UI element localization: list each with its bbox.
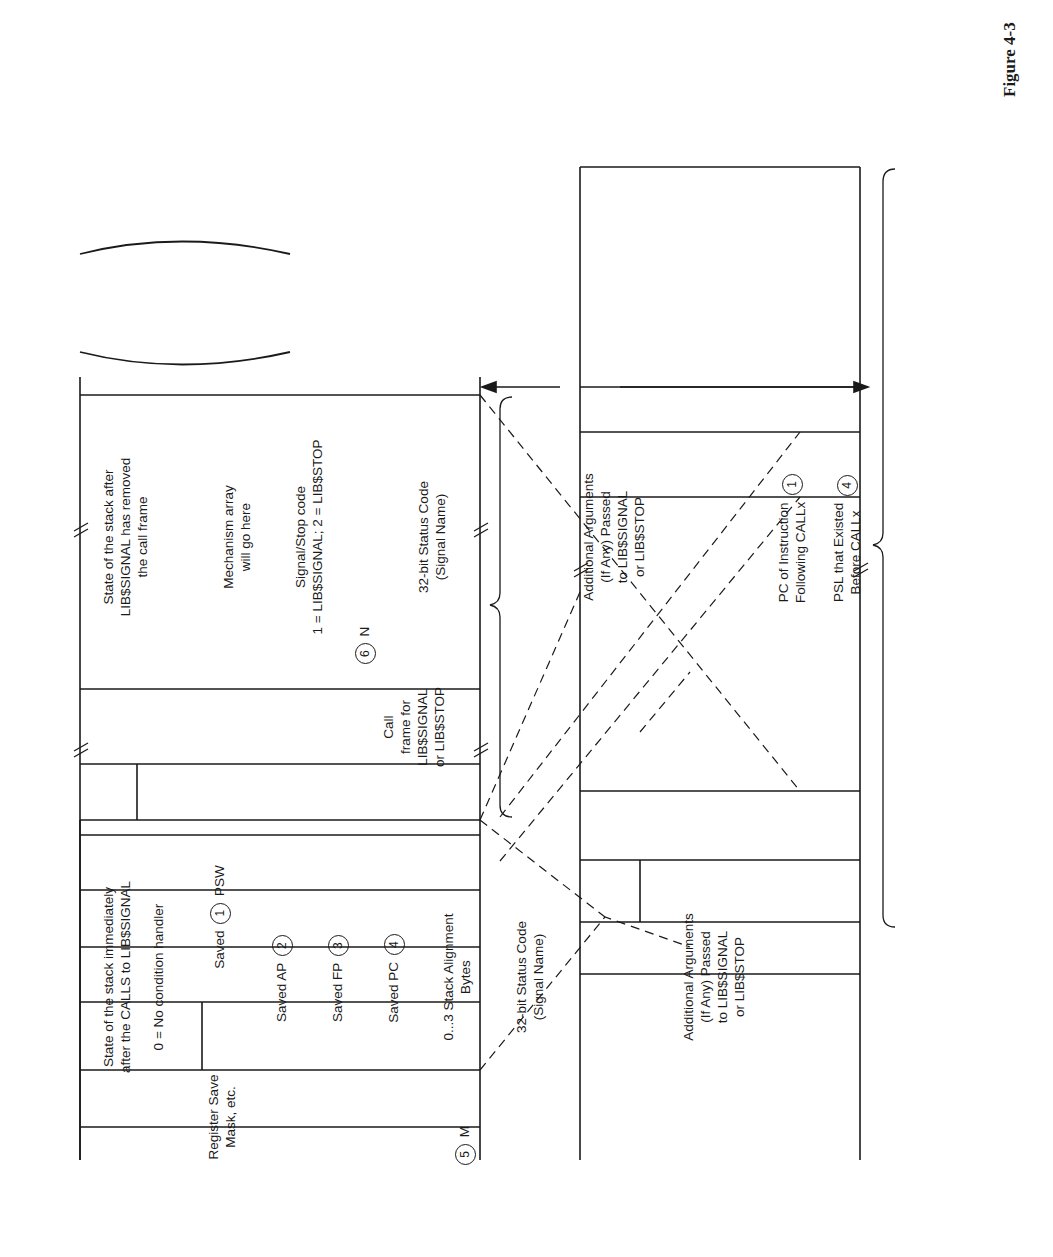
- cell-saved-pc: Saved PC 4: [384, 777, 405, 1177]
- cell-additional-args-right: Additional Arguments (If Any) Passed to …: [580, 397, 648, 677]
- figure-4-3-diagram: State of the stack immediately after the…: [0, 0, 1053, 1257]
- callout-3-icon: 3: [328, 935, 349, 956]
- cell-saved-fp: Saved FP 3: [328, 777, 349, 1177]
- cell-pc-following-callx: PC of Instruction Following CALLx 1: [775, 397, 809, 677]
- callout-2-icon: 2: [272, 935, 293, 956]
- cell-arg-count-n: 6 N: [355, 617, 376, 677]
- callout-1-icon: 1: [782, 474, 803, 495]
- call-frame-label: Call frame for LIB$SIGNAL or LIB$STOP: [380, 687, 448, 767]
- callout-4-icon: 4: [384, 934, 405, 955]
- right-stack-heading: State of the stack after LIB$SIGNAL has …: [100, 397, 151, 677]
- figure-label: Figure 4-3: [1000, 22, 1020, 97]
- cell-arg-count-m: 5 M: [455, 1117, 476, 1177]
- callout-4-icon: 4: [837, 475, 858, 496]
- callout-1-icon: 1: [210, 903, 231, 924]
- cell-saved-ap: Saved AP 2: [272, 777, 293, 1177]
- cell-status-code-left: 32-bit Status Code (Signal Name): [513, 777, 547, 1177]
- cell-saved-psw: Saved 1 PSW: [210, 782, 231, 1052]
- cell-status-code-right: 32-bit Status Code (Signal Name): [415, 397, 449, 677]
- callout-5-icon: 5: [455, 1144, 476, 1165]
- cell-signal-stop-code: Signal/Stop code 1 = LIB$SIGNAL; 2 = LIB…: [292, 397, 326, 677]
- left-stack-heading: State of the stack immediately after the…: [100, 777, 134, 1177]
- cell-additional-args-left: Additional Arguments (If Any) Passed to …: [680, 777, 748, 1177]
- cell-register-save-mask: Register Save Mask, etc.: [205, 1057, 239, 1177]
- cell-psl-before-callx: PSL that Existed Before CALLx 4: [830, 397, 864, 677]
- callout-6-icon: 6: [355, 643, 376, 664]
- cell-mechanism-array: Mechanism array will go here: [220, 397, 254, 677]
- cell-condition-handler: 0 = No condition handler: [150, 777, 167, 1177]
